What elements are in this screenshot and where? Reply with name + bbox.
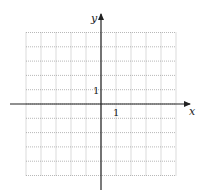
y-axis-label: y bbox=[90, 12, 98, 25]
coordinate-plane: x y 1 1 bbox=[0, 0, 200, 195]
y-tick-label-1: 1 bbox=[93, 85, 99, 96]
x-axis-label: x bbox=[189, 105, 196, 118]
x-tick-label-1: 1 bbox=[113, 107, 119, 118]
